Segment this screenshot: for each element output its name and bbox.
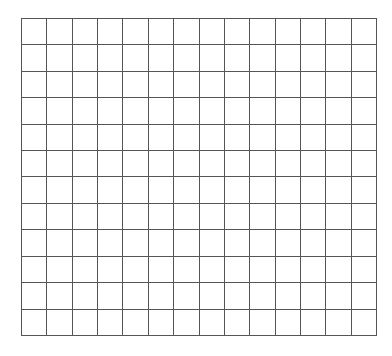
grid-cell — [21, 229, 46, 255]
grid-cell — [199, 71, 224, 97]
grid-cell — [199, 256, 224, 282]
grid-cell — [300, 150, 325, 176]
grid-cell — [199, 44, 224, 70]
grid-cell — [97, 44, 122, 70]
grid-cell — [122, 150, 147, 176]
grid-cell — [122, 309, 147, 335]
grid-cell — [72, 97, 97, 123]
grid-cell — [300, 124, 325, 150]
grid-cell — [325, 176, 350, 202]
grid-cell — [325, 309, 350, 335]
grid-cell — [224, 97, 249, 123]
grid-cell — [300, 18, 325, 44]
grid-cell — [46, 256, 71, 282]
grid-cell — [148, 282, 173, 308]
grid-cell — [224, 229, 249, 255]
grid-cell — [199, 176, 224, 202]
grid-cell — [46, 18, 71, 44]
grid-cell — [275, 18, 300, 44]
grid-cell — [122, 44, 147, 70]
grid-cell — [122, 282, 147, 308]
grid-cell — [72, 71, 97, 97]
grid-cell — [249, 150, 274, 176]
grid-cell — [173, 282, 198, 308]
grid-cell — [46, 176, 71, 202]
grid-cell — [199, 282, 224, 308]
grid-cell — [122, 18, 147, 44]
grid-cell — [300, 229, 325, 255]
grid-cell — [173, 124, 198, 150]
grid-cell — [275, 309, 300, 335]
grid-cell — [72, 203, 97, 229]
grid-cell — [249, 18, 274, 44]
grid-cell — [224, 176, 249, 202]
grid-cell — [72, 44, 97, 70]
grid-cell — [199, 309, 224, 335]
grid-cell — [72, 309, 97, 335]
grid-cell — [97, 309, 122, 335]
grid-cell — [300, 203, 325, 229]
grid-cell — [351, 44, 376, 70]
grid-cell — [300, 71, 325, 97]
grid-cell — [173, 97, 198, 123]
grid-cell — [97, 71, 122, 97]
grid-cell — [72, 229, 97, 255]
grid-cell — [199, 18, 224, 44]
grid-cell — [249, 124, 274, 150]
grid-cell — [351, 282, 376, 308]
empty-grid — [21, 18, 377, 336]
grid-cell — [224, 203, 249, 229]
grid-cell — [21, 97, 46, 123]
grid-cell — [46, 97, 71, 123]
grid-cell — [21, 18, 46, 44]
grid-cell — [46, 203, 71, 229]
grid-cell — [199, 97, 224, 123]
grid-cell — [148, 150, 173, 176]
grid-cell — [275, 203, 300, 229]
grid-cell — [325, 97, 350, 123]
grid-cell — [325, 150, 350, 176]
grid-cell — [325, 256, 350, 282]
grid-cell — [97, 176, 122, 202]
grid-cell — [122, 71, 147, 97]
grid-cell — [249, 229, 274, 255]
grid-cell — [224, 150, 249, 176]
grid-cell — [351, 309, 376, 335]
grid-cell — [325, 71, 350, 97]
grid-cell — [351, 256, 376, 282]
grid-cell — [97, 282, 122, 308]
grid-cell — [173, 176, 198, 202]
grid-cell — [325, 18, 350, 44]
grid-cell — [72, 150, 97, 176]
grid-cell — [275, 229, 300, 255]
grid-cell — [97, 150, 122, 176]
grid-cell — [21, 124, 46, 150]
grid-cell — [21, 309, 46, 335]
grid-cell — [148, 176, 173, 202]
grid-cell — [351, 150, 376, 176]
grid-cell — [173, 150, 198, 176]
grid-cell — [249, 97, 274, 123]
grid-cell — [46, 71, 71, 97]
grid-cell — [122, 124, 147, 150]
grid-cell — [351, 71, 376, 97]
grid-cell — [173, 256, 198, 282]
grid-cell — [46, 309, 71, 335]
grid-cell — [46, 124, 71, 150]
grid-cell — [148, 71, 173, 97]
grid-cell — [351, 97, 376, 123]
grid-cell — [275, 44, 300, 70]
grid-cell — [224, 282, 249, 308]
grid-cell — [97, 229, 122, 255]
grid-cell — [300, 309, 325, 335]
grid-cell — [173, 18, 198, 44]
grid-cell — [72, 124, 97, 150]
grid-cell — [325, 124, 350, 150]
grid-cell — [275, 150, 300, 176]
grid-cell — [275, 282, 300, 308]
grid-cell — [224, 256, 249, 282]
grid-cell — [249, 203, 274, 229]
grid-cell — [249, 309, 274, 335]
grid-cell — [300, 97, 325, 123]
grid-cell — [249, 44, 274, 70]
